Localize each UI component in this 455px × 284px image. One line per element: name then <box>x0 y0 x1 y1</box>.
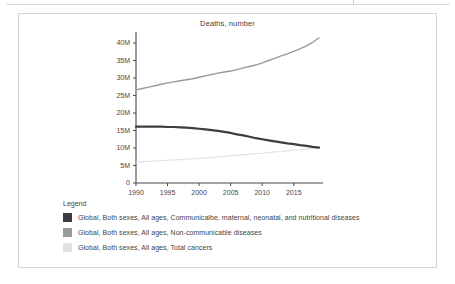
chart-legend: Legend Global, Both sexes, All ages, Com… <box>63 200 433 258</box>
legend-item-non-communicable[interactable]: Global, Both sexes, All ages, Non-commun… <box>63 228 433 237</box>
x-axis-tick-label: 2015 <box>286 189 302 196</box>
legend-item-label: Global, Both sexes, All ages, Communical… <box>78 214 359 221</box>
window-top-divider <box>6 4 450 5</box>
x-axis-tick-label: 1995 <box>160 189 176 196</box>
legend-item-label: Global, Both sexes, All ages, Total canc… <box>78 244 212 251</box>
y-axis-tick-label: 5M <box>120 162 130 169</box>
y-axis-tick-label: 40M <box>116 39 130 46</box>
legend-swatch-icon <box>63 228 72 237</box>
legend-swatch-icon <box>63 243 72 252</box>
y-axis-tick-label: 30M <box>116 74 130 81</box>
y-axis-tick-label: 15M <box>116 127 130 134</box>
y-axis-tick-label: 25M <box>116 92 130 99</box>
x-axis-tick-label: 1990 <box>128 189 144 196</box>
series-line <box>136 127 319 148</box>
x-axis-tick-label: 2010 <box>254 189 270 196</box>
window-top-tick <box>353 0 354 5</box>
legend-item-communicable[interactable]: Global, Both sexes, All ages, Communical… <box>63 213 433 222</box>
chart-plot-area: 05M10M15M20M25M30M35M40M1990199520002005… <box>19 14 438 204</box>
legend-swatch-icon <box>63 213 72 222</box>
series-line <box>136 148 319 162</box>
chart-card: Deaths, number 05M10M15M20M25M30M35M40M1… <box>18 13 437 268</box>
y-axis-tick-label: 0 <box>126 179 130 186</box>
legend-title: Legend <box>63 200 433 207</box>
legend-item-label: Global, Both sexes, All ages, Non-commun… <box>78 229 262 236</box>
series-line <box>136 38 319 90</box>
x-axis-tick-label: 2000 <box>191 189 207 196</box>
legend-item-total-cancers[interactable]: Global, Both sexes, All ages, Total canc… <box>63 243 433 252</box>
chart-svg: 05M10M15M20M25M30M35M40M1990199520002005… <box>19 14 438 204</box>
x-axis-tick-label: 2005 <box>223 189 239 196</box>
y-axis-tick-label: 20M <box>116 109 130 116</box>
y-axis-tick-label: 35M <box>116 57 130 64</box>
y-axis-tick-label: 10M <box>116 144 130 151</box>
